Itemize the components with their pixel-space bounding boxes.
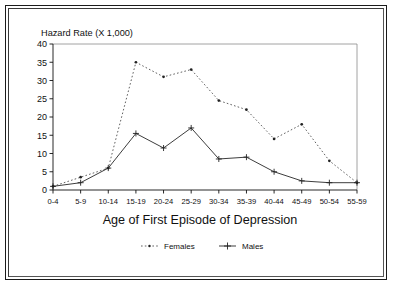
x-axis-title: Age of First Episode of Depression xyxy=(103,213,298,227)
data-point-marker xyxy=(190,68,193,71)
data-point-marker xyxy=(243,154,249,160)
legend-marker-females xyxy=(148,245,150,247)
data-point-marker xyxy=(326,180,332,186)
series-markers-males xyxy=(50,125,360,189)
data-point-marker xyxy=(271,169,277,175)
hazard-rate-line-chart: 0510152025303540 0-45-910-1415-1920-2425… xyxy=(0,0,394,287)
data-point-marker xyxy=(217,99,220,102)
y-tick-label: 30 xyxy=(37,76,47,86)
x-axis-ticks xyxy=(53,190,357,194)
y-tick-label: 10 xyxy=(37,149,47,159)
y-axis-tick-labels: 0510152025303540 xyxy=(37,39,47,195)
x-axis-tick-labels: 0-45-910-1415-1920-2425-2930-3435-3940-4… xyxy=(48,197,367,206)
y-tick-label: 35 xyxy=(37,58,47,68)
y-tick-label: 40 xyxy=(37,39,47,49)
y-tick-label: 5 xyxy=(42,167,47,177)
y-axis-title: Hazard Rate (X 1,000) xyxy=(41,28,133,38)
data-point-marker xyxy=(79,176,82,179)
chart-legend: Females Males xyxy=(141,242,263,251)
legend-label-females: Females xyxy=(164,242,195,251)
x-tick-label: 40-44 xyxy=(264,197,283,206)
x-tick-label: 15-19 xyxy=(126,197,145,206)
data-point-marker xyxy=(299,178,305,184)
x-tick-label: 30-34 xyxy=(209,197,228,206)
x-tick-label: 0-4 xyxy=(48,197,59,206)
y-tick-label: 20 xyxy=(37,112,47,122)
legend-label-males: Males xyxy=(242,242,263,251)
x-tick-label: 35-39 xyxy=(237,197,256,206)
y-tick-label: 0 xyxy=(42,185,47,195)
data-point-marker xyxy=(162,76,165,79)
data-point-marker xyxy=(78,180,84,186)
data-series-layer xyxy=(50,61,360,189)
data-point-marker xyxy=(328,159,331,162)
series-markers-females xyxy=(52,61,359,188)
x-tick-label: 25-29 xyxy=(181,197,200,206)
y-tick-label: 25 xyxy=(37,94,47,104)
figure-container: 0510152025303540 0-45-910-1415-1920-2425… xyxy=(0,0,394,287)
y-axis-ticks xyxy=(50,44,54,190)
data-point-marker xyxy=(354,180,360,186)
x-tick-label: 55-59 xyxy=(347,197,366,206)
x-tick-label: 20-24 xyxy=(154,197,173,206)
data-point-marker xyxy=(273,138,276,141)
data-point-marker xyxy=(135,61,138,64)
x-tick-label: 50-54 xyxy=(320,197,339,206)
data-point-marker xyxy=(300,123,303,126)
legend-marker-males xyxy=(224,243,231,250)
data-point-marker xyxy=(245,108,248,111)
plot-area-border xyxy=(53,44,357,190)
y-tick-label: 15 xyxy=(37,131,47,141)
x-tick-label: 10-14 xyxy=(99,197,118,206)
x-tick-label: 45-49 xyxy=(292,197,311,206)
x-tick-label: 5-9 xyxy=(75,197,86,206)
series-line-females xyxy=(53,62,357,186)
data-point-marker xyxy=(50,183,56,189)
